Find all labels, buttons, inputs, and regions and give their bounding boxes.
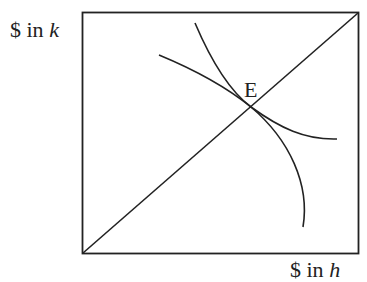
x-axis-label-var: h <box>329 257 340 282</box>
edgeworth-box-diagram: E $ in k $ in h <box>0 0 367 282</box>
x-axis-label-prefix: $ in <box>290 257 329 282</box>
x-axis-label: $ in h <box>290 257 340 282</box>
diagonal-line <box>83 13 358 253</box>
equilibrium-label: E <box>244 77 257 102</box>
y-axis-label: $ in k <box>10 17 60 42</box>
y-axis-label-var: k <box>49 17 60 42</box>
steep-indifference-curve <box>195 23 304 227</box>
y-axis-label-prefix: $ in <box>10 17 49 42</box>
